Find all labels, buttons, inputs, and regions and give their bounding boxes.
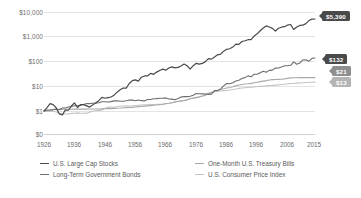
x-tick-label: 1996	[241, 141, 271, 149]
y-tick-label: $10	[32, 83, 43, 90]
legend-item-consumer-price-index[interactable]: U.S. Consumer Price Index	[195, 169, 350, 180]
legend-line-icon	[195, 163, 204, 165]
legend-column-right: One-Month U.S. Treasury Bills U.S. Consu…	[195, 158, 350, 180]
end-label-text: $5,390	[326, 13, 346, 20]
end-label-text: $132	[329, 56, 343, 63]
plot-area	[44, 12, 315, 136]
x-tick-label: 1936	[59, 141, 89, 149]
x-tick-label: 1956	[120, 141, 150, 149]
legend: U.S. Large Cap Stocks Long-Term Governme…	[40, 158, 350, 180]
x-tick-label: 1946	[90, 141, 120, 149]
end-label-consumer-price-index: $13	[332, 77, 351, 87]
growth-of-a-dollar-chart: $10,000 $1,000 $100 $10 $1 $0 1926 1936 …	[0, 0, 361, 198]
y-tick-label: $100	[28, 58, 43, 65]
x-tick-label: 1926	[29, 141, 59, 149]
end-label-government-bonds: $132	[325, 54, 347, 64]
legend-column-left: U.S. Large Cap Stocks Long-Term Governme…	[40, 158, 195, 180]
legend-label: Long-Term Government Bonds	[53, 171, 140, 178]
legend-item-treasury-bills[interactable]: One-Month U.S. Treasury Bills	[195, 158, 350, 169]
legend-line-icon	[40, 163, 49, 165]
legend-item-large-cap-stocks[interactable]: U.S. Large Cap Stocks	[40, 158, 195, 169]
legend-label: U.S. Consumer Price Index	[208, 171, 285, 178]
series-line-government-bonds	[44, 58, 315, 111]
x-tick-label: 1966	[150, 141, 180, 149]
end-label-text: $21	[336, 68, 347, 75]
y-tick-label: $1,000	[23, 33, 43, 40]
legend-line-icon	[40, 174, 49, 176]
legend-item-government-bonds[interactable]: Long-Term Government Bonds	[40, 169, 195, 180]
end-label-treasury-bills: $21	[332, 66, 351, 76]
legend-line-icon	[195, 174, 204, 176]
end-label-text: $13	[336, 79, 347, 86]
x-tick-label: 1986	[211, 141, 241, 149]
series-line-large-cap-stocks	[44, 19, 315, 115]
x-tick-label: 2006	[272, 141, 302, 149]
series-container	[44, 12, 315, 136]
x-tick-label: 1976	[181, 141, 211, 149]
y-tick-label: $0	[36, 131, 43, 138]
y-tick-label: $1	[36, 108, 43, 115]
legend-label: U.S. Large Cap Stocks	[53, 160, 118, 167]
legend-label: One-Month U.S. Treasury Bills	[208, 160, 294, 167]
end-label-large-cap-stocks: $5,390	[322, 11, 350, 21]
x-tick-label: 2015	[299, 141, 329, 149]
y-tick-label: $10,000	[19, 9, 43, 16]
series-line-treasury-bills	[44, 78, 315, 111]
